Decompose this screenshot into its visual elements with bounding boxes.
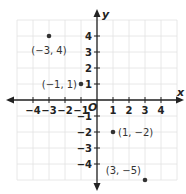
y-tick-label: 2 [85, 63, 92, 74]
point-label: (3, −5) [106, 165, 141, 176]
y-axis-label: y [102, 8, 110, 21]
y-tick-label: 1 [85, 79, 92, 90]
y-tick-label: −3 [77, 143, 92, 154]
x-tick-label: 3 [142, 105, 149, 116]
data-point [79, 82, 84, 87]
data-point [143, 178, 148, 183]
data-point [111, 130, 116, 135]
point-label: (1, −2) [118, 127, 153, 138]
x-axis-left-arrow-icon [6, 97, 14, 104]
y-tick-label: −2 [77, 127, 92, 138]
point-label: (−1, 1) [42, 79, 77, 90]
x-tick-label: −4 [25, 105, 40, 116]
x-tick-label: 4 [158, 105, 165, 116]
y-axis-down-arrow-icon [94, 183, 101, 191]
x-tick-label: 2 [126, 105, 133, 116]
origin-label: O [88, 101, 97, 114]
x-tick-label: −3 [41, 105, 56, 116]
x-tick-label: −2 [57, 105, 72, 116]
y-tick-label: −4 [77, 159, 92, 170]
x-axis-label: x [176, 86, 185, 99]
coordinate-plane: −4−3−2−112344321−1−2−3−4 y x O (−3, 4)(−… [0, 0, 186, 194]
y-axis-up-arrow-icon [94, 9, 101, 17]
data-point [47, 34, 52, 39]
point-label: (−3, 4) [31, 45, 66, 56]
x-tick-label: 1 [110, 105, 117, 116]
y-tick-label: 4 [85, 31, 92, 42]
y-tick-label: 3 [85, 47, 92, 58]
